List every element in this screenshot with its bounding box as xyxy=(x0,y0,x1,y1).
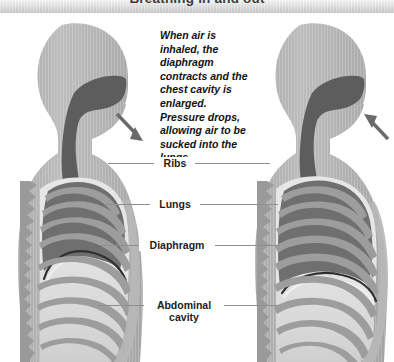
label-diaphragm: Diaphragm xyxy=(139,239,215,251)
right-figure xyxy=(255,13,394,362)
label-abdominal-cavity: Abdominal cavity xyxy=(144,299,224,323)
leader-line-abdominal-left xyxy=(98,305,146,306)
caption-text: When air is inhaled, the diaphragm contr… xyxy=(160,29,252,165)
leader-line-diaphragm-left xyxy=(100,245,140,246)
leader-line-diaphragm-right xyxy=(206,245,280,246)
leader-line-ribs-right xyxy=(188,163,270,164)
page-title: Breathing in and out xyxy=(0,0,394,6)
title-bar: Breathing in and out xyxy=(0,0,394,13)
label-lungs: Lungs xyxy=(150,198,200,210)
label-ribs: Ribs xyxy=(155,157,195,169)
leader-line-lungs-right xyxy=(192,204,278,205)
breathing-diagram-page: Breathing in and out xyxy=(0,0,394,362)
left-figure xyxy=(18,13,150,362)
leader-line-ribs-left xyxy=(108,163,154,164)
leader-line-lungs-left xyxy=(104,204,150,205)
